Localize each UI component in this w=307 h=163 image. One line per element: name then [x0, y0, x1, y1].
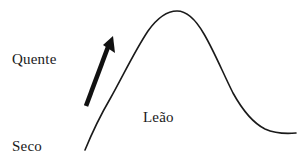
diagram-canvas: Quente Seco Leão — [0, 0, 307, 163]
label-seco: Seco — [12, 139, 42, 154]
bell-curve-line — [85, 11, 296, 150]
up-right-arrow-icon — [86, 36, 115, 106]
label-quente: Quente — [12, 52, 57, 67]
label-leao: Leão — [143, 110, 174, 125]
bell-curve-figure — [0, 0, 307, 163]
